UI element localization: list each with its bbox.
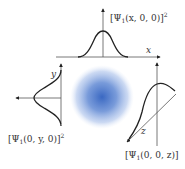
top-plot-label: [Ψ1(x, 0, 0)]2 — [110, 11, 168, 24]
top-plot: [Ψ1(x, 0, 0)]2 x — [56, 9, 168, 57]
left-plot: y [Ψ1(0, y, 0)]2 — [8, 64, 65, 145]
electron-cloud — [70, 65, 134, 129]
y-axis-label: y — [50, 69, 57, 79]
z-axis-label: z — [140, 126, 146, 136]
orbital-diagram: [Ψ1(x, 0, 0)]2 x y [Ψ1(0, y, 0)]2 z [Ψ1(… — [0, 0, 185, 169]
right-gaussian-curve — [129, 83, 175, 139]
right-plot: z [Ψ1(0, 0, z)] — [125, 63, 178, 161]
right-plot-label: [Ψ1(0, 0, z)] — [125, 150, 178, 161]
left-plot-label: [Ψ1(0, y, 0)]2 — [8, 132, 65, 145]
z-axis — [127, 94, 176, 142]
x-axis-label: x — [146, 45, 151, 55]
